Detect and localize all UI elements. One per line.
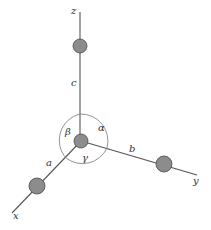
z-axis-label: z (70, 5, 77, 16)
edge-label-c: c (71, 77, 77, 88)
edge-label-a: a (46, 157, 52, 168)
atom-lower-left (29, 178, 45, 194)
angle-label-alpha: α (98, 122, 105, 133)
x-axis (12, 141, 81, 213)
edge-label-b: b (129, 143, 135, 154)
x-axis-label: x (13, 210, 19, 221)
unit-cell-axes-diagram: z y x c b a β α γ (0, 0, 211, 230)
atom-right (156, 156, 172, 172)
angle-label-gamma: γ (82, 152, 88, 163)
y-axis-label: y (192, 175, 199, 186)
angle-label-beta: β (64, 126, 71, 137)
y-axis (81, 141, 197, 175)
atom-top (73, 39, 87, 53)
atom-origin (74, 134, 88, 148)
